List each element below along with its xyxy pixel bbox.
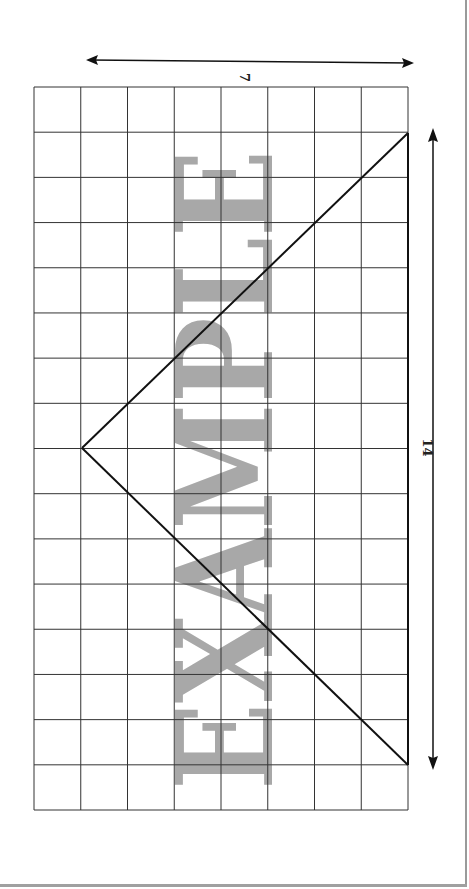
height-label: 7 — [237, 73, 252, 82]
watermark: EXAMPLE — [148, 150, 303, 790]
svg-text:EXAMPLE: EXAMPLE — [148, 150, 303, 790]
base-label: 14 — [420, 438, 435, 456]
height-dimension-arrow — [86, 55, 414, 68]
grid — [34, 87, 408, 810]
diagram-canvas: EXAMPLE — [0, 0, 469, 889]
